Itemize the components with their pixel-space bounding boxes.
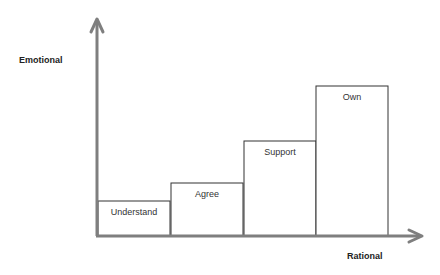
bar-label-agree: Agree	[171, 189, 243, 199]
bar-label-understand: Understand	[98, 207, 170, 217]
bar-label-own: Own	[316, 92, 388, 102]
x-axis-label: Rational	[347, 251, 383, 261]
diagram-canvas	[0, 0, 440, 275]
bar-label-support: Support	[244, 147, 316, 157]
y-axis-label: Emotional	[19, 55, 63, 65]
bar-own	[316, 86, 388, 236]
